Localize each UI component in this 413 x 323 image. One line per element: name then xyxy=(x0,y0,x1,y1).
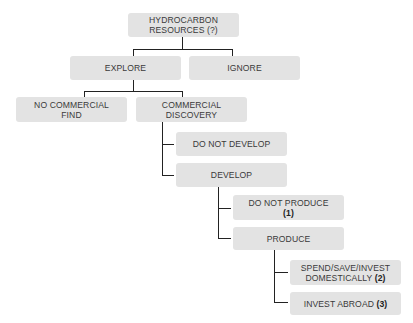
node-commercial-discovery: COMMERCIAL DISCOVERY xyxy=(136,97,247,122)
node-develop: DEVELOP xyxy=(176,163,287,187)
connector xyxy=(133,49,233,50)
connector xyxy=(182,37,183,49)
connector xyxy=(162,144,174,145)
node-footnote: (3) xyxy=(377,299,388,309)
node-hydrocarbon-resources: HYDROCARBON RESOURCES (?) xyxy=(128,13,239,37)
node-label: DO NOT PRODUCE xyxy=(248,198,328,208)
node-label: PRODUCE xyxy=(267,234,311,244)
connector xyxy=(232,49,233,56)
node-spend-save-invest-domestically: SPEND/SAVE/INVEST DOMESTICALLY (2) xyxy=(290,260,401,285)
node-label: EXPLORE xyxy=(105,63,146,73)
connector xyxy=(274,272,288,273)
node-label: IGNORE xyxy=(227,63,262,73)
node-do-not-develop: DO NOT DEVELOP xyxy=(176,132,287,156)
connector xyxy=(162,122,163,176)
connector xyxy=(133,49,134,56)
node-label: SPEND/SAVE/INVEST xyxy=(301,263,390,273)
node-label: FIND xyxy=(61,110,81,120)
node-ignore: IGNORE xyxy=(189,56,300,80)
node-label: DISCOVERY xyxy=(166,110,217,120)
node-footnote: (2) xyxy=(375,273,386,283)
connector xyxy=(274,250,275,303)
connector xyxy=(162,175,174,176)
node-label: HYDROCARBON xyxy=(149,15,218,25)
connector xyxy=(218,187,219,239)
node-label: INVEST ABROAD xyxy=(304,299,374,309)
node-label: COMMERCIAL xyxy=(162,100,221,110)
node-invest-abroad: INVEST ABROAD (3) xyxy=(290,292,401,315)
node-label: DEVELOP xyxy=(211,170,252,180)
node-produce: PRODUCE xyxy=(233,227,344,250)
connector xyxy=(218,208,231,209)
node-label: RESOURCES (?) xyxy=(149,25,218,35)
node-do-not-produce: DO NOT PRODUCE (1) xyxy=(233,195,344,220)
node-explore: EXPLORE xyxy=(70,56,181,80)
node-label: DO NOT DEVELOP xyxy=(193,139,271,149)
connector xyxy=(218,238,231,239)
connector xyxy=(84,91,183,92)
connector xyxy=(274,302,288,303)
connector xyxy=(133,80,134,91)
node-label: DOMESTICALLY xyxy=(305,273,372,283)
node-label: NO COMMERCIAL xyxy=(34,100,109,110)
node-no-commercial-find: NO COMMERCIAL FIND xyxy=(16,97,127,122)
node-footnote: (1) xyxy=(283,208,294,218)
